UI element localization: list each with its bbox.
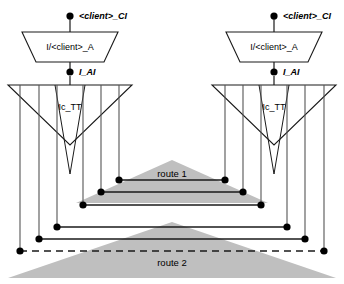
- left-client-node-label: <client>_CI: [79, 11, 128, 21]
- route-2-link-inner-right-dot[interactable]: [283, 223, 290, 230]
- diagram-canvas: <client>_CI I/<client>_A I_AI Ic_TT: [0, 0, 344, 284]
- left-bus-label: Ic_TT: [58, 102, 82, 112]
- right-interface-node-label: I_AI: [283, 67, 300, 77]
- route-2-link-inner-left-dot[interactable]: [53, 223, 60, 230]
- right-interface-node-dot[interactable]: [270, 68, 277, 75]
- route-1-link-middle-right-dot[interactable]: [239, 188, 246, 195]
- route-2-label: route 2: [157, 257, 187, 268]
- route-2-link-outer-left-dot[interactable]: [16, 247, 23, 254]
- route-1-label: route 1: [157, 168, 187, 179]
- right-adapter-label: I/<client>_A: [250, 42, 298, 52]
- route-1-link-outer-left-dot[interactable]: [79, 201, 86, 208]
- route-2-link-middle-left-dot[interactable]: [35, 235, 42, 242]
- right-client-node-dot[interactable]: [270, 12, 277, 19]
- route-1-link-outer-right-dot[interactable]: [257, 201, 264, 208]
- left-interface-node-dot[interactable]: [66, 68, 73, 75]
- right-client-node-label: <client>_CI: [283, 11, 332, 21]
- right-bus-label: Ic_TT: [262, 102, 286, 112]
- route-1-link-inner-right-dot[interactable]: [221, 176, 228, 183]
- route-1-link-inner-left-dot[interactable]: [115, 176, 122, 183]
- route-2-link-middle-right-dot[interactable]: [301, 235, 308, 242]
- route-1-link-middle-left-dot[interactable]: [97, 188, 104, 195]
- left-client-node-dot[interactable]: [66, 12, 73, 19]
- architecture-diagram: <client>_CI I/<client>_A I_AI Ic_TT: [0, 0, 344, 284]
- left-interface-node-label: I_AI: [79, 67, 96, 77]
- left-adapter-label: I/<client>_A: [46, 42, 94, 52]
- route-2-link-outer-right-dot[interactable]: [320, 247, 327, 254]
